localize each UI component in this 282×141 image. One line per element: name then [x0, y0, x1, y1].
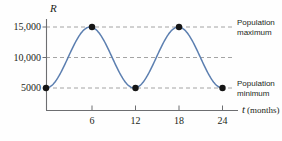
marker-min-t12	[132, 85, 138, 91]
y-axis-ticks	[43, 27, 47, 88]
population-maximum-annotation: Population maximum	[237, 18, 275, 37]
x-axis-label: t(months)	[242, 103, 280, 115]
x-axis-unit: (months)	[247, 105, 280, 115]
y-tick-label-10000: 10,000	[0, 52, 41, 63]
population-maximum-line2: maximum	[237, 28, 275, 38]
marker-min-t24	[219, 85, 225, 91]
x-tick-label-12: 12	[126, 115, 146, 126]
x-tick-label-18: 18	[169, 115, 189, 126]
y-tick-label-15000: 15,000	[0, 21, 41, 32]
marker-max-t18	[176, 24, 182, 30]
x-axis-symbol: t	[242, 103, 245, 115]
x-tick-label-6: 6	[82, 115, 102, 126]
marker-min-t0	[43, 85, 49, 91]
y-axis-label: R	[50, 2, 57, 14]
x-axis-ticks	[92, 106, 223, 111]
population-minimum-line2: minimum	[237, 89, 275, 99]
population-minimum-line1: Population	[237, 79, 275, 89]
marker-max-t6	[89, 24, 95, 30]
gridlines	[46, 27, 232, 88]
y-tick-label-5000: 5000	[0, 82, 41, 93]
x-tick-label-24: 24	[213, 115, 233, 126]
population-maximum-line1: Population	[237, 18, 275, 28]
population-cycle-chart: R 15,000 10,000 5000 6 12 18 24 t(months…	[0, 0, 282, 141]
population-minimum-annotation: Population minimum	[237, 79, 275, 98]
